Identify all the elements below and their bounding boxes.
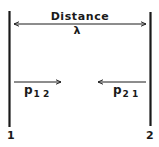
distance-label: Distance (51, 10, 110, 23)
lambda-symbol: λ (74, 24, 81, 37)
plate-flux-diagram: Distance λ p1 2 p2 1 1 2 (0, 0, 159, 147)
flux-label-p12: p1 2 (24, 83, 49, 99)
flux-label-p21: p2 1 (113, 83, 138, 99)
flux-label-p12-base: p (24, 83, 33, 97)
flux-label-p12-sub: 1 2 (34, 89, 50, 99)
plate-2-label: 2 (146, 129, 154, 142)
flux-label-p21-sub: 2 1 (123, 89, 139, 99)
flux-label-p21-base: p (113, 83, 122, 97)
plate-1-label: 1 (7, 129, 15, 142)
